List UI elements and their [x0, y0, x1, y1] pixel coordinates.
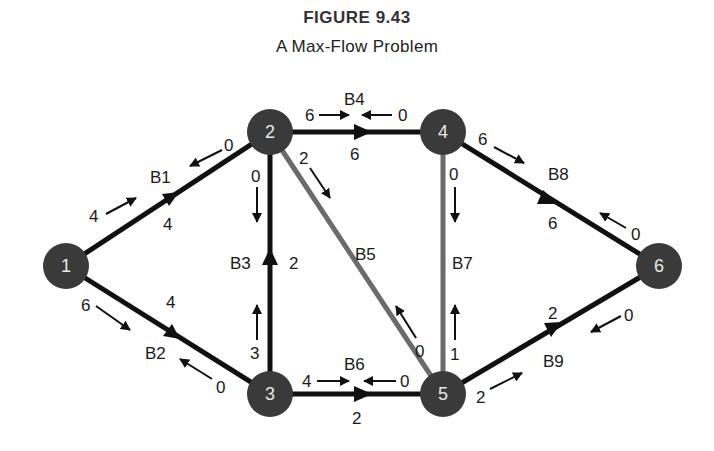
edge-cap-forward-B1: 4	[89, 207, 98, 226]
cap-arrow-icon	[180, 359, 212, 379]
flow-arrow-icon	[354, 124, 372, 140]
edge-name-B7: B7	[452, 254, 473, 273]
edge-cap-backward-B3: 0	[251, 167, 260, 186]
node-label: 5	[438, 384, 448, 404]
edge-labels: B1 4 4 0 B2 6 4 0 B3 0 2 3 B4 6 0 6 B5 2…	[81, 90, 640, 428]
edge-name-B2: B2	[145, 344, 166, 363]
node-label: 4	[438, 122, 448, 142]
cap-arrow-icon	[600, 213, 626, 228]
edge-cap-backward-B9: 0	[624, 306, 633, 325]
edge-cap-forward-B3: 3	[250, 344, 259, 363]
edge-cap-forward-B4: 6	[305, 106, 314, 125]
node-label: 2	[265, 122, 275, 142]
edge-name-B8: B8	[548, 165, 569, 184]
node-label: 3	[265, 384, 275, 404]
edge-cap-backward-B6: 0	[400, 372, 409, 391]
cap-arrow-icon	[106, 198, 136, 214]
node-label: 6	[654, 256, 664, 276]
node-5: 5	[420, 371, 466, 417]
edge-cap-backward-B2: 0	[216, 378, 225, 397]
edge-cap-forward-B8: 6	[478, 130, 487, 149]
node-label: 1	[61, 256, 71, 276]
edge-cap-forward-B7: 0	[449, 165, 458, 184]
edge-cap-backward-B7: 1	[450, 345, 459, 364]
edge-cap-backward-B4: 0	[398, 106, 407, 125]
flow-arrow-icon	[354, 386, 372, 402]
edge-name-B9: B9	[543, 352, 564, 371]
cap-arrow-icon	[190, 150, 222, 166]
edge-name-B6: B6	[344, 355, 365, 374]
cap-arrow-icon	[591, 316, 621, 332]
edge-flow-B6: 2	[352, 409, 361, 428]
edge-flow-B1: 4	[163, 215, 172, 234]
edge-name-B5: B5	[355, 245, 376, 264]
edge-flow-B2: 4	[166, 293, 175, 312]
edge-cap-backward-B5: 0	[415, 342, 424, 361]
edge-cap-forward-B9: 2	[476, 388, 485, 407]
node-4: 4	[420, 109, 466, 155]
cap-arrow-icon	[396, 306, 416, 338]
node-1: 1	[43, 243, 89, 289]
edge-cap-forward-B5: 2	[299, 149, 308, 168]
edge-cap-forward-B2: 6	[81, 296, 90, 315]
edge-cap-backward-B1: 0	[224, 136, 233, 155]
edge-cap-backward-B8: 0	[631, 225, 640, 244]
node-2: 2	[247, 109, 293, 155]
node-6: 6	[636, 243, 682, 289]
edge-flow-B3: 2	[289, 254, 298, 273]
edge-name-B4: B4	[344, 90, 365, 109]
flow-arrow-icon	[262, 248, 278, 265]
edge-flow-B9: 2	[548, 304, 557, 323]
cap-arrow-icon	[490, 373, 522, 389]
edge-flow-B8: 6	[548, 214, 557, 233]
max-flow-network-diagram: B1 4 4 0 B2 6 4 0 B3 0 2 3 B4 6 0 6 B5 2…	[0, 0, 714, 451]
node-3: 3	[247, 371, 293, 417]
cap-arrow-icon	[494, 147, 524, 163]
edge-name-B1: B1	[150, 168, 171, 187]
edge-name-B3: B3	[230, 254, 251, 273]
cap-arrow-icon	[96, 306, 130, 330]
edge-cap-forward-B6: 4	[302, 372, 311, 391]
edge-flow-B4: 6	[350, 145, 359, 164]
